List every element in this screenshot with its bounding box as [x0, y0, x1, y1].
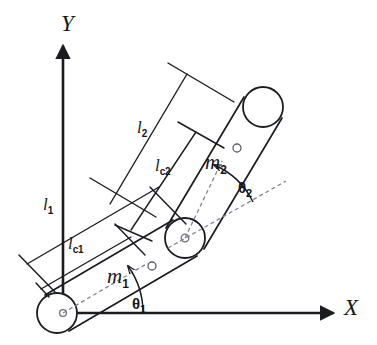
lc1-subscript: c1	[73, 244, 84, 255]
m1-symbol: m	[107, 264, 122, 288]
link-1-length-label: l1	[43, 196, 53, 216]
m1-subscript: 1	[122, 277, 129, 291]
l2-subscript: 2	[142, 128, 147, 139]
link-2-com-length-label: lc2	[155, 157, 170, 177]
com-marker-link-2	[233, 144, 241, 152]
x-axis-label: X	[344, 296, 358, 319]
l1-extension-tick-start	[19, 255, 55, 292]
end-effector-joint-outer	[243, 87, 283, 127]
com-marker-link-1	[148, 262, 156, 270]
link-1-edge-lower	[69, 256, 197, 331]
lc2-extension-tick-end	[178, 122, 224, 148]
theta2-symbol: θ	[238, 179, 246, 196]
l1-subscript: 1	[48, 205, 53, 216]
y-axis-label: Y	[61, 12, 74, 35]
link-2-length-label: l2	[137, 119, 147, 139]
theta1-symbol: θ	[132, 295, 140, 312]
m2-symbol: m	[205, 150, 220, 174]
coordinate-axes	[63, 46, 333, 313]
base-joint-outer	[37, 293, 77, 333]
diagram-svg	[0, 0, 377, 345]
link-1-mass-label: m1	[107, 266, 129, 290]
lc2-subscript: c2	[160, 166, 171, 177]
link-1-com-length-label: lc1	[68, 235, 83, 255]
l2-extension-tick-start	[90, 178, 156, 217]
m2-subscript: 2	[220, 163, 227, 177]
link-2-mass-label: m2	[205, 152, 227, 176]
theta1-subscript: 1	[140, 303, 146, 315]
theta-1-label: θ1	[132, 296, 146, 315]
l2-extension-tick-end	[168, 63, 234, 102]
theta-2-label: θ2	[238, 180, 252, 199]
joint-circles	[37, 87, 283, 333]
lc2-dimension-line	[131, 132, 196, 230]
l2-dimension-line	[110, 74, 187, 204]
figure-canvas: Y X l1 lc1 m1 θ1 l2 lc2 m2 θ2	[0, 0, 377, 345]
theta2-subscript: 2	[246, 187, 252, 199]
